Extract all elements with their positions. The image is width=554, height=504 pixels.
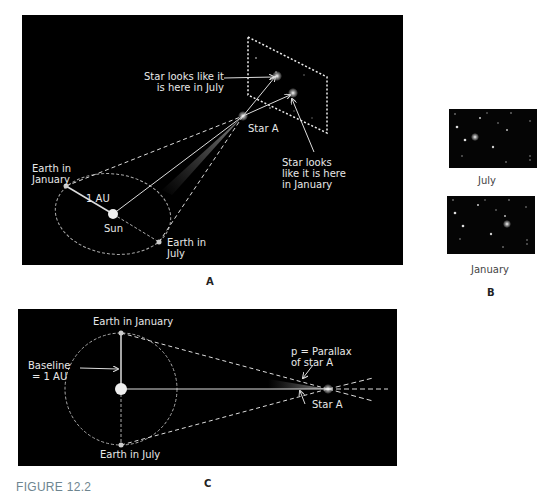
sun-icon <box>115 383 127 395</box>
panel-c-label: C <box>204 478 211 489</box>
figure-caption: FIGURE 12.2 <box>16 480 91 494</box>
label-star-a: Star A <box>312 399 343 410</box>
star-field-january <box>447 196 535 254</box>
panel-a-orbit-diagram: Star looks like it is here in July Star … <box>22 15 403 265</box>
earth-july-icon <box>157 240 162 245</box>
label-parallax: p = Parallax of star A <box>291 346 352 368</box>
label-1-au: 1 AU <box>86 193 110 204</box>
label-earth-january: Earth in January <box>32 163 71 185</box>
label-sun: Sun <box>104 223 123 234</box>
sun-icon <box>108 209 118 219</box>
label-july-position: Star looks like it is here in July <box>144 71 224 93</box>
star-a-icon <box>323 384 333 394</box>
july-caption: July <box>478 175 496 186</box>
label-baseline: Baseline = 1 AU <box>28 360 70 382</box>
panel-a-label: A <box>206 276 214 287</box>
january-caption: January <box>471 264 509 275</box>
orbit-parallax-drawing <box>22 15 403 265</box>
label-january-position: Star looks like it is here in January <box>282 157 346 190</box>
label-earth-july: Earth in July <box>100 449 160 460</box>
star-field-july <box>449 109 537 168</box>
panel-c-baseline-diagram: Earth in January Baseline = 1 AU p = Par… <box>18 309 397 466</box>
star-a-icon <box>238 111 248 121</box>
earth-july-icon <box>119 443 124 448</box>
earth-january-icon <box>119 331 124 336</box>
label-earth-july: Earth in July <box>167 237 206 259</box>
panel-b-label: B <box>487 287 495 298</box>
label-star-a: Star A <box>248 123 279 134</box>
label-earth-january: Earth in January <box>93 316 173 327</box>
